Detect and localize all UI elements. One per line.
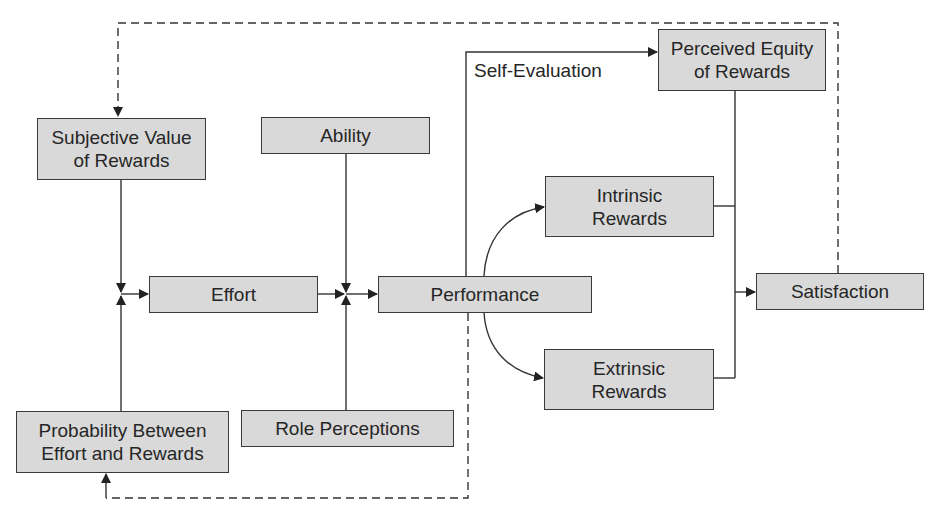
node-perceived-equity-of-rewards: Perceived Equity of Rewards xyxy=(658,29,826,91)
node-intrinsic-rewards: Intrinsic Rewards xyxy=(545,176,714,237)
node-ability: Ability xyxy=(261,117,430,154)
node-extrinsic-rewards: Extrinsic Rewards xyxy=(544,349,714,410)
node-subjective-value-of-rewards: Subjective Value of Rewards xyxy=(37,118,206,180)
node-effort: Effort xyxy=(149,276,318,313)
node-probability-between-effort-and-rewards: Probability Between Effort and Rewards xyxy=(16,411,229,473)
node-performance: Performance xyxy=(378,276,592,313)
edge-label-self-evaluation: Self-Evaluation xyxy=(474,60,602,82)
node-satisfaction: Satisfaction xyxy=(756,273,924,310)
node-role-perceptions: Role Perceptions xyxy=(241,410,454,447)
